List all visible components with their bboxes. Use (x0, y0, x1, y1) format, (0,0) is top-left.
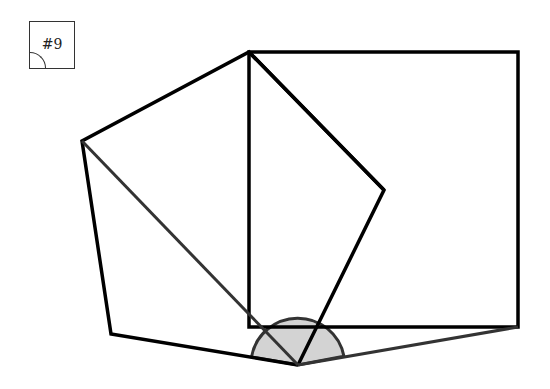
geometry-diagram (0, 0, 550, 389)
gray-diagonal-line (82, 141, 298, 365)
pentagon-edges (82, 52, 384, 365)
square-diagonal-edge (249, 52, 384, 190)
